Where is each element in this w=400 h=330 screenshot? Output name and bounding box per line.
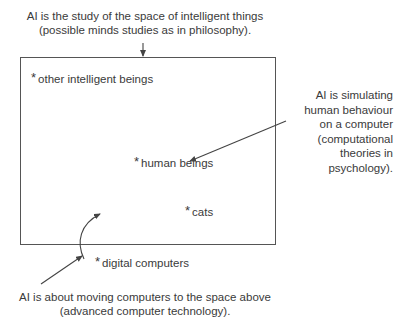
arrows-layer (0, 0, 400, 330)
arrow-technology-to-digital-computers (41, 256, 82, 284)
arrow-psychology-to-human-beings (190, 121, 286, 161)
curved-arrow-computers-into-space (80, 214, 100, 259)
